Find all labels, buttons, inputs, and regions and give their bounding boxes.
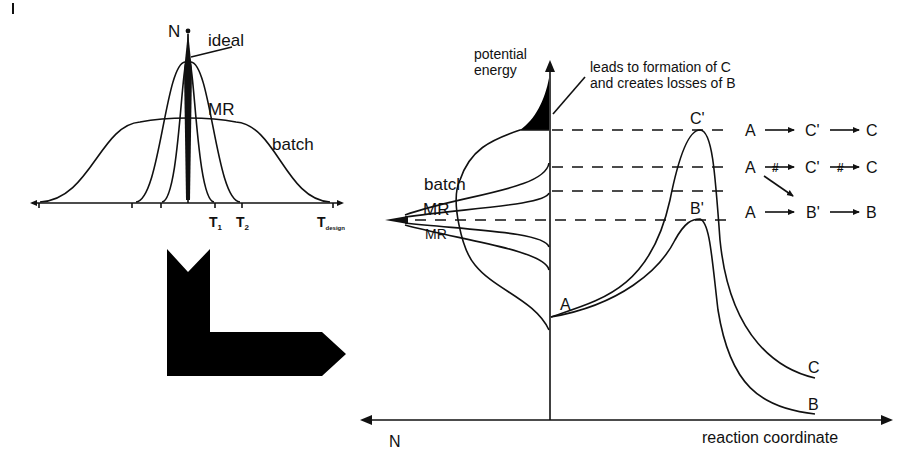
tdesign-label: Tdesign — [317, 214, 345, 231]
reaction-scheme-1: A C' C — [745, 122, 878, 139]
blocked-icon: # — [837, 161, 844, 175]
n-axis-label: N — [389, 433, 401, 450]
svg-text:C: C — [866, 122, 878, 139]
batch-distribution-label: batch — [424, 175, 466, 194]
svg-text:A: A — [745, 159, 756, 176]
point-a-label: A — [560, 296, 571, 313]
point-c-label: C — [808, 359, 820, 376]
svg-text:C': C' — [805, 122, 820, 139]
high-energy-tail-fill — [520, 78, 549, 130]
svg-text:B: B — [866, 204, 877, 221]
transition-arrow-icon — [167, 249, 346, 376]
ideal-spike — [184, 32, 192, 200]
svg-text:A: A — [745, 122, 756, 139]
svg-text:A: A — [745, 204, 756, 221]
batch-label: batch — [272, 135, 314, 154]
diagram-canvas: N ideal MR batch T1 T2 Tdesign potential… — [0, 0, 911, 470]
point-b-label: B — [808, 396, 819, 413]
t2-label: T2 — [236, 214, 250, 232]
path-a-to-b — [551, 219, 815, 414]
energy-axis-label-line1: potential — [474, 46, 527, 62]
point-b-prime-label: B' — [690, 200, 704, 217]
mr-energy-label: MR — [423, 200, 449, 219]
ideal-energy-spike — [385, 216, 408, 224]
reaction-scheme-3: A B' B — [745, 204, 877, 221]
svg-text:B': B' — [806, 204, 820, 221]
svg-text:C': C' — [805, 159, 820, 176]
left-y-axis-label: N — [168, 22, 180, 41]
annotation-line1: leads to formation of C — [590, 59, 731, 75]
t1-label: T1 — [209, 214, 223, 232]
blocked-icon: # — [772, 161, 779, 175]
annotation-line2: and creates losses of B — [590, 75, 736, 91]
point-c-prime-label: C' — [690, 110, 705, 127]
annotation-pointer — [553, 77, 585, 114]
ideal-label: ideal — [208, 31, 244, 50]
energy-diagram: potential energy reaction coordinate N l… — [360, 46, 893, 450]
energy-axis-label-line2: energy — [474, 62, 517, 78]
reaction-coordinate-label: reaction coordinate — [702, 429, 838, 446]
svg-text:C: C — [866, 159, 878, 176]
mr-distribution-label: MR — [425, 226, 447, 242]
batch-energy-distribution — [456, 130, 549, 330]
left-distribution-chart: N ideal MR batch T1 T2 Tdesign — [30, 22, 345, 232]
reaction-scheme-2-blocked: A # C' # C — [745, 159, 878, 196]
mr-label: MR — [208, 100, 234, 119]
diversion-arrow — [764, 176, 793, 196]
